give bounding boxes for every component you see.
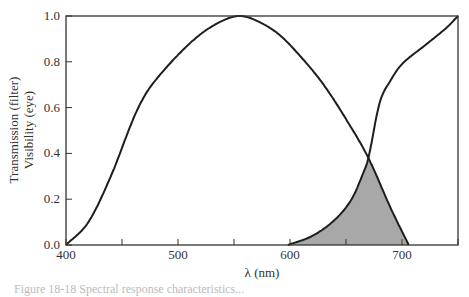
plot-frame bbox=[66, 16, 458, 245]
figure-caption: Figure 18-18 Spectral response character… bbox=[14, 282, 244, 297]
y-tick-label: 0.0 bbox=[44, 237, 60, 252]
y-tick-label: 0.4 bbox=[44, 145, 61, 160]
y-tick-label: 0.6 bbox=[44, 100, 61, 115]
overlap-shaded-area bbox=[288, 158, 409, 245]
x-tick-label: 600 bbox=[280, 247, 300, 262]
y-axis-ticks: 0.00.20.40.60.81.0 bbox=[44, 8, 72, 252]
x-tick-label: 700 bbox=[392, 247, 412, 262]
x-axis-title: λ (nm) bbox=[245, 265, 280, 280]
y-tick-label: 0.2 bbox=[44, 191, 60, 206]
y-tick-label: 1.0 bbox=[44, 8, 60, 23]
x-tick-label: 500 bbox=[168, 247, 188, 262]
y-tick-label: 0.8 bbox=[44, 54, 60, 69]
curves bbox=[66, 16, 458, 245]
y-axis-title-line1: Transmission (filter) bbox=[6, 77, 21, 184]
y-axis-title-line2: Visibility (eye) bbox=[21, 91, 36, 169]
